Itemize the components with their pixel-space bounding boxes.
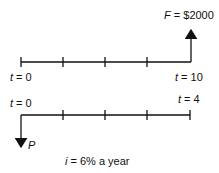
interest-rate-label: i = 6% a year (65, 155, 130, 167)
top-start-label: t = 0 (10, 71, 32, 83)
present-value-label: P (28, 139, 35, 151)
bottom-start-label: t = 0 (10, 97, 32, 109)
bottom-timeline (21, 110, 190, 143)
top-timeline (21, 34, 191, 67)
future-value-label: F = $2000 (164, 9, 214, 21)
bottom-end-label: t = 4 (178, 93, 200, 105)
top-end-label: t = 10 (175, 71, 203, 83)
